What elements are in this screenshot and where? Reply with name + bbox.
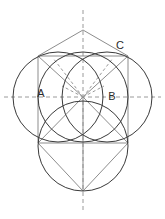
ray-center-upper-left [53,58,83,97]
segment-right-top-to-center [83,56,128,97]
geometry-figure: A B C [0,0,165,219]
segment-right-low-to-bottom [83,143,128,191]
geometry-canvas: A B C [0,0,165,219]
segment-left-low-to-bottom [38,143,83,191]
label-a: A [37,87,45,99]
label-b: B [108,90,115,102]
segment-left-top-to-center [38,56,83,97]
label-c: C [116,39,124,51]
